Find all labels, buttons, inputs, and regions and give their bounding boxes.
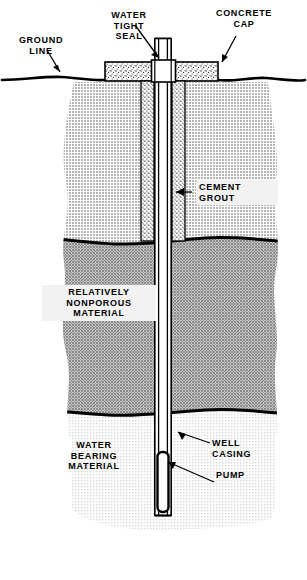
water-tight-seal: [152, 60, 176, 82]
well-cross-section-diagram: [0, 0, 307, 580]
well-casing: [154, 38, 172, 516]
pump-body: [158, 452, 169, 512]
pump: [158, 452, 169, 512]
cement-grout-right-fill: [172, 81, 185, 241]
cement-grout-left-fill: [141, 81, 154, 241]
diagram-canvas: [0, 0, 307, 580]
well-casing-fill: [154, 38, 172, 516]
